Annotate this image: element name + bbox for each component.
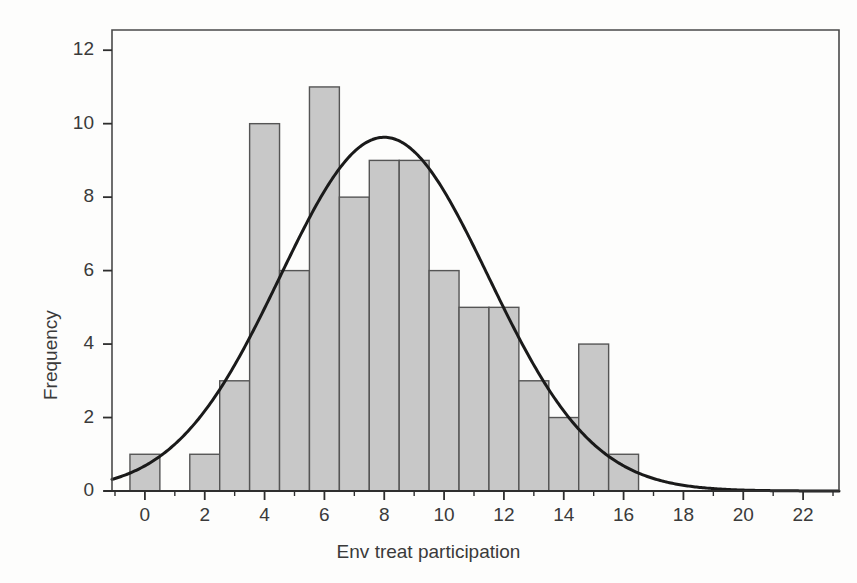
histogram-bar	[280, 271, 310, 491]
x-tick-label: 16	[604, 504, 644, 526]
bar-series	[130, 87, 639, 491]
x-tick-label: 22	[783, 504, 823, 526]
histogram-bar	[190, 454, 220, 491]
x-tick-label: 12	[484, 504, 524, 526]
x-tick-label: 10	[424, 504, 464, 526]
histogram-bar	[369, 160, 399, 491]
histogram-figure: Frequency Env treat participation 024681…	[0, 0, 857, 583]
y-axis-label-container: Frequency	[8, 150, 48, 410]
histogram-bar	[579, 344, 609, 491]
histogram-bar	[549, 418, 579, 491]
y-axis-label: Frequency	[40, 310, 62, 400]
x-tick-label: 14	[544, 504, 584, 526]
x-tick-label: 18	[663, 504, 703, 526]
histogram-bar	[429, 271, 459, 491]
histogram-bar	[339, 197, 369, 491]
x-tick-label: 0	[125, 504, 165, 526]
y-tick-label: 6	[54, 259, 94, 281]
y-tick-label: 2	[54, 406, 94, 428]
x-tick-label: 2	[185, 504, 225, 526]
y-tick-label: 4	[54, 332, 94, 354]
y-tick-label: 8	[54, 185, 94, 207]
histogram-bar	[519, 381, 549, 491]
y-axis-ticks	[103, 50, 112, 491]
histogram-bar	[220, 381, 250, 491]
chart-canvas	[0, 0, 857, 583]
x-tick-label: 8	[364, 504, 404, 526]
x-tick-label: 4	[245, 504, 285, 526]
x-axis-ticks	[115, 491, 833, 500]
y-tick-label: 10	[54, 112, 94, 134]
y-tick-label: 12	[54, 38, 94, 60]
histogram-bar	[459, 307, 489, 491]
histogram-bar	[399, 160, 429, 491]
x-axis-label-container: Env treat participation	[0, 541, 857, 563]
y-tick-label: 0	[54, 479, 94, 501]
x-tick-label: 6	[304, 504, 344, 526]
x-tick-label: 20	[723, 504, 763, 526]
x-axis-label: Env treat participation	[337, 541, 521, 562]
histogram-bar	[309, 87, 339, 491]
histogram-bar	[489, 307, 519, 491]
